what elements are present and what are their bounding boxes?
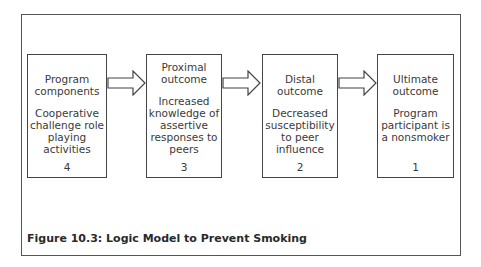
box-title: Program components	[28, 73, 106, 97]
right-arrow-icon	[107, 70, 147, 96]
box-ultimate-outcome: Ultimate outcome Program participant is …	[377, 54, 454, 178]
box-description: Decreased susceptibility to peer influen…	[263, 107, 337, 155]
box-program-components: Program components Cooperative challenge…	[27, 54, 107, 178]
box-number: 2	[263, 161, 337, 173]
box-description: Cooperative challenge role playing activ…	[28, 107, 106, 155]
box-description: Increased knowledge of assertive respons…	[147, 95, 221, 155]
right-arrow-icon	[338, 70, 378, 96]
box-number: 3	[147, 161, 221, 173]
box-title: Ultimate outcome	[378, 73, 453, 97]
box-title: Proximal outcome	[147, 61, 221, 85]
box-number: 4	[28, 161, 106, 173]
figure-caption: Figure 10.3: Logic Model to Prevent Smok…	[27, 232, 307, 245]
box-distal-outcome: Distal outcome Decreased susceptibility …	[262, 54, 338, 178]
box-title: Distal outcome	[263, 73, 337, 97]
box-proximal-outcome: Proximal outcome Increased knowledge of …	[146, 54, 222, 178]
box-number: 1	[378, 161, 453, 173]
right-arrow-icon	[222, 70, 262, 96]
box-description: Program participant is a nonsmoker	[378, 107, 453, 143]
